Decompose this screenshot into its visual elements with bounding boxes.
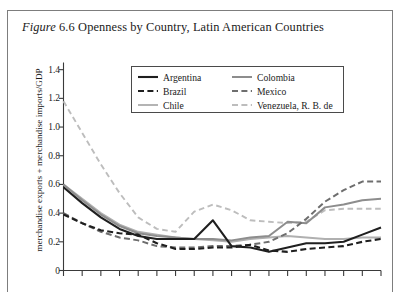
legend-swatch-icon: [232, 100, 252, 110]
legend-swatch-icon: [138, 86, 158, 96]
legend-entry: Chile: [138, 98, 201, 112]
legend-entry: Colombia: [232, 70, 333, 84]
legend-label: Colombia: [257, 72, 295, 83]
legend-swatch-icon: [138, 100, 158, 110]
legend-column-1: ArgentinaBrazilChile: [138, 70, 201, 112]
chart-legend: ArgentinaBrazilChile ColombiaMexicoVenez…: [131, 66, 344, 113]
legend-label: Argentina: [163, 72, 201, 83]
legend-entry: Mexico: [232, 84, 333, 98]
legend-entry: Brazil: [138, 84, 201, 98]
legend-column-2: ColombiaMexicoVenezuela, R. B. de: [232, 70, 333, 112]
series-line: [64, 101, 382, 232]
legend-label: Venezuela, R. B. de: [257, 100, 333, 111]
legend-swatch-icon: [138, 72, 158, 82]
legend-entry: Venezuela, R. B. de: [232, 98, 333, 112]
legend-label: Brazil: [163, 86, 186, 97]
legend-swatch-icon: [232, 86, 252, 96]
legend-label: Chile: [163, 100, 184, 111]
series-line: [64, 182, 382, 248]
legend-label: Mexico: [257, 86, 286, 97]
legend-swatch-icon: [232, 72, 252, 82]
legend-entry: Argentina: [138, 70, 201, 84]
